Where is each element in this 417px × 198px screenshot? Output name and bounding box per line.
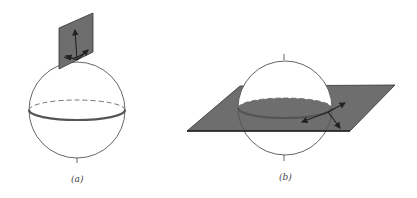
panel-b: (b) xyxy=(187,54,395,182)
caption-b: (b) xyxy=(279,172,292,182)
figure: (a) (b) xyxy=(0,0,417,198)
panel-a: (a) xyxy=(29,13,125,184)
sphere-a xyxy=(29,62,125,158)
equator-back-a xyxy=(29,100,125,110)
caption-a: (a) xyxy=(71,174,84,184)
equator-front-a xyxy=(29,110,125,120)
